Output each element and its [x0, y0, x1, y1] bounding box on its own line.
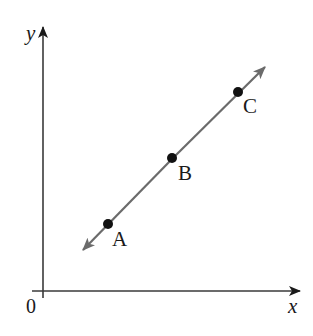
- point-b-label: B: [178, 161, 192, 185]
- point-b: [167, 153, 177, 163]
- line-abc-lower: [83, 158, 173, 250]
- y-axis-label: y: [24, 21, 36, 45]
- point-a-label: A: [112, 227, 128, 251]
- point-c: [233, 87, 243, 97]
- x-axis-label: x: [287, 294, 298, 318]
- coordinate-plane: y x 0 A B C: [0, 0, 313, 336]
- origin-label: 0: [26, 295, 36, 317]
- point-c-label: C: [243, 94, 257, 118]
